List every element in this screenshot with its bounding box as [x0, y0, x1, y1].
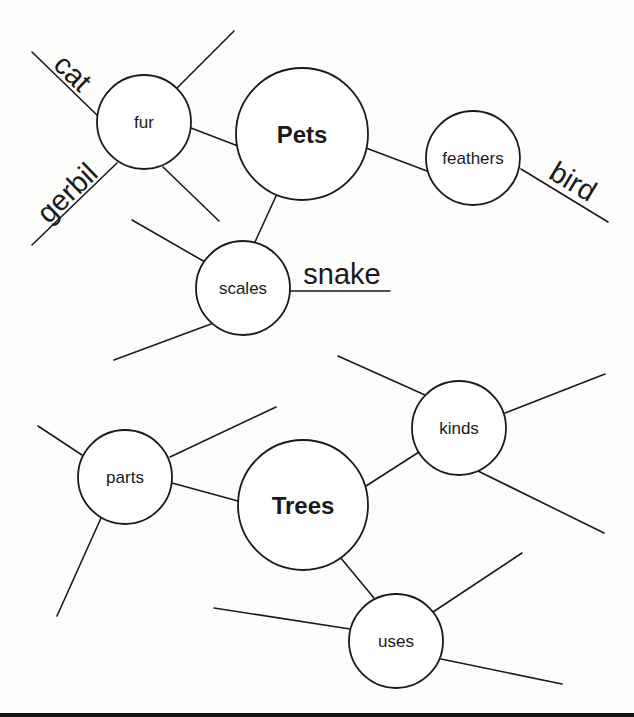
blank-answer-line [170, 407, 276, 457]
branch-node-fur-label: fur [134, 113, 154, 132]
branch-node-uses-label: uses [378, 632, 414, 651]
hub-node-pets: Pets [236, 68, 368, 200]
branch-node-feathers: feathers [426, 111, 520, 205]
blank-answer-line [214, 608, 350, 629]
link-trees-uses [340, 557, 374, 598]
concept-nodes: PetsfurfeathersscalesTreespartskindsuses [78, 68, 520, 688]
blank-answer-line [433, 553, 522, 612]
blank-answer-line [505, 374, 605, 413]
link-pets-scales [255, 196, 276, 242]
hub-node-trees-label: Trees [272, 492, 335, 519]
branch-node-uses: uses [349, 594, 443, 688]
web-organizer-diagram: PetsfurfeathersscalesTreespartskindsuses… [0, 0, 634, 717]
branch-node-fur: fur [97, 75, 191, 169]
branch-node-kinds: kinds [412, 381, 506, 475]
blank-answer-line [114, 324, 211, 360]
link-pets-feathers [366, 148, 427, 171]
branch-node-parts-label: parts [106, 468, 144, 487]
blank-answer-line [38, 426, 82, 455]
link-pets-fur [191, 128, 238, 146]
answer-text-bird: bird [544, 155, 602, 207]
diagram-svg: PetsfurfeathersscalesTreespartskindsuses… [0, 0, 634, 717]
link-trees-kinds [366, 452, 419, 486]
blank-answer-line [338, 356, 425, 395]
blank-answer-line [57, 518, 101, 616]
branch-node-scales: scales [196, 241, 290, 335]
branch-node-feathers-label: feathers [442, 149, 503, 168]
blank-answer-line [163, 167, 219, 221]
answer-text-snake: snake [303, 258, 380, 290]
blank-answer-line [478, 471, 604, 533]
blank-answer-line [177, 31, 234, 88]
hub-node-trees: Trees [238, 440, 368, 570]
branch-node-scales-label: scales [219, 279, 267, 298]
answer-text-gerbil: gerbil [30, 157, 103, 229]
blank-answer-line [441, 659, 562, 684]
bottom-edge-strip [0, 713, 634, 717]
link-trees-parts [172, 483, 238, 501]
blank-answer-line [132, 220, 205, 262]
answer-text-cat: cat [48, 48, 98, 98]
branch-node-kinds-label: kinds [439, 419, 479, 438]
hub-node-pets-label: Pets [277, 121, 328, 148]
branch-node-parts: parts [78, 430, 172, 524]
